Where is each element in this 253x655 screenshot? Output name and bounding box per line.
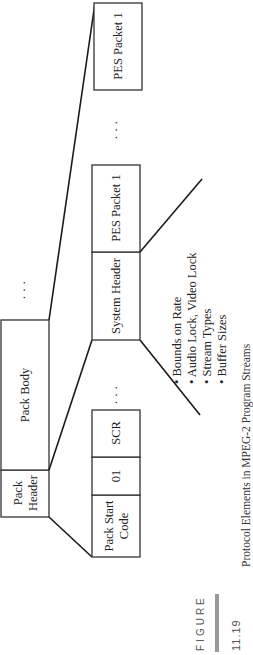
figure-label: FIGURE [195,595,206,651]
figure-number: 11.19 [230,619,242,651]
pack-start-code-label-1: Pack Start [102,500,116,552]
pack-body-label: Pack Body [18,367,32,422]
body-ellipsis: · · · [109,121,123,140]
sys-item-stream-types: • Stream Types [200,308,214,384]
pack-header-label-2: Header [26,474,40,511]
figure-caption: Protocol Elements in MPEG-2 Program Stre… [240,343,253,567]
pack-header-box [1,470,49,517]
marker-bits-label: 01 [109,470,123,483]
pack-start-code-box [92,495,140,557]
pack-header-label-1: Pack [11,480,25,505]
body-expand-line-bottom [49,340,92,470]
pack-ellipsis: · · · [17,281,31,300]
system-header-label: System Header [109,257,123,334]
header-ellipsis: · · · [109,386,123,405]
scr-label: SCR [109,421,123,445]
sys-item-bounds: • Bounds on Rate [170,296,184,384]
body-expand-line-top [49,3,95,320]
pes-packet-first-label: PES Packet 1 [109,174,123,241]
pack-start-code-label-2: Code [117,512,131,539]
pes-packet-last-label: PES Packet 1 [111,12,125,79]
system-header-expand-top [140,179,202,252]
sys-item-locks: • Audio Lock, Video Lock [185,252,199,384]
header-expand-line-bottom [49,517,92,557]
sys-item-buffer-sizes: • Buffer Sizes [215,314,229,384]
figure-bar [215,594,219,652]
mpeg2-program-stream-diagram: Pack Header Pack Body · · · Pack Start C… [0,0,253,655]
